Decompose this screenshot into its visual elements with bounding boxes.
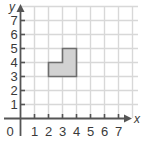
x-tick-label-7: 7: [115, 124, 122, 139]
x-tick-label-4: 4: [73, 124, 80, 139]
x-tick-label-1: 1: [31, 124, 38, 139]
x-tick-label-2: 2: [45, 124, 52, 139]
y-axis-tick-labels: 1 2 3 4 5 6 7: [10, 13, 17, 112]
coordinate-grid-figure: 1 2 3 4 5 6 7 0 1 2 3 4 5 6 7 y x: [0, 0, 142, 141]
y-tick-label-5: 5: [10, 41, 17, 56]
y-axis-label: y: [8, 0, 16, 14]
y-tick-label-7: 7: [10, 13, 17, 28]
y-tick-label-1: 1: [10, 97, 17, 112]
coordinate-plane-svg: 1 2 3 4 5 6 7 0 1 2 3 4 5 6 7 y x: [0, 0, 142, 141]
y-tick-label-6: 6: [10, 27, 17, 42]
x-tick-label-5: 5: [87, 124, 94, 139]
x-tick-label-3: 3: [59, 124, 66, 139]
origin-label: 0: [6, 124, 13, 139]
x-tick-label-6: 6: [101, 124, 108, 139]
y-tick-label-2: 2: [10, 83, 17, 98]
y-tick-label-3: 3: [10, 69, 17, 84]
y-tick-label-4: 4: [10, 55, 17, 70]
x-axis-label: x: [133, 112, 141, 126]
